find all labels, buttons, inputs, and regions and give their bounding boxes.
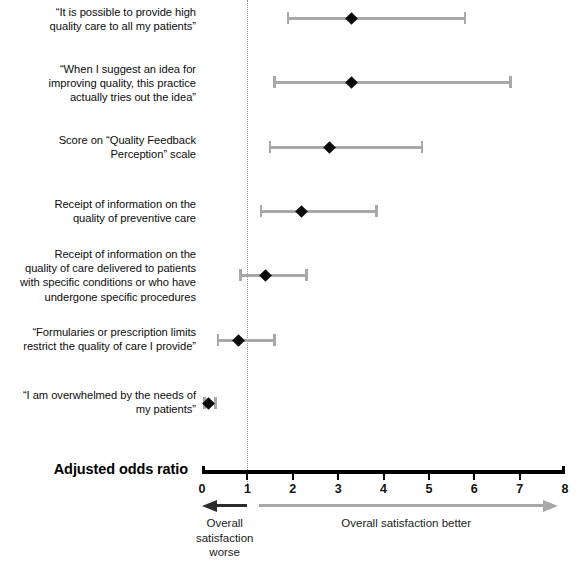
axis-tick-label: 1 <box>237 482 257 496</box>
axis-endcap-right <box>562 466 565 474</box>
axis-tick <box>337 474 339 480</box>
axis-tick <box>519 474 521 480</box>
axis-tick-label: 4 <box>374 482 394 496</box>
axis-tick <box>246 474 248 480</box>
worse-direction-arrow-line <box>216 504 247 507</box>
odds-ratio-point-marker <box>295 205 308 218</box>
confidence-interval-line <box>218 339 275 342</box>
axis-tick <box>383 474 385 480</box>
ci-cap-low <box>269 141 272 153</box>
ci-cap-high <box>509 76 512 88</box>
odds-ratio-point-marker <box>345 12 358 25</box>
odds-ratio-point-marker <box>323 141 336 154</box>
ci-cap-low <box>273 76 276 88</box>
axis-tick-label: 0 <box>192 482 212 496</box>
confidence-interval-line <box>270 146 422 149</box>
axis-title: Adjusted odds ratio <box>40 461 188 477</box>
better-direction-caption: Overall satisfaction better <box>257 516 555 531</box>
axis-tick-label: 8 <box>555 482 575 496</box>
confidence-interval-line <box>261 210 377 213</box>
axis-tick-label: 6 <box>464 482 484 496</box>
ci-cap-high <box>421 141 424 153</box>
confidence-interval-line <box>241 274 307 277</box>
axis-tick-label: 7 <box>510 482 530 496</box>
ci-cap-high <box>305 269 308 281</box>
odds-ratio-point-marker <box>259 269 272 282</box>
confidence-interval-line <box>275 81 511 84</box>
plot-area: 012345678Adjusted odds ratioOverall sati… <box>0 0 578 562</box>
axis-tick-label: 2 <box>283 482 303 496</box>
forest-plot-figure: “It is possible to provide high quality … <box>0 0 578 562</box>
axis-tick-label: 3 <box>328 482 348 496</box>
better-direction-arrow-head <box>543 500 558 512</box>
axis-tick-label: 5 <box>419 482 439 496</box>
axis-tick <box>473 474 475 480</box>
odds-ratio-point-marker <box>232 334 245 347</box>
axis-endcap-left <box>202 466 205 474</box>
ci-cap-high <box>273 334 276 346</box>
ci-cap-low <box>239 269 242 281</box>
ci-cap-high <box>464 12 467 24</box>
ci-cap-low <box>217 334 220 346</box>
ci-cap-high <box>375 205 378 217</box>
odds-ratio-point-marker <box>345 76 358 89</box>
axis-tick <box>428 474 430 480</box>
null-reference-line <box>247 0 248 490</box>
worse-direction-arrow-head <box>202 500 217 512</box>
better-direction-arrow-line <box>259 504 543 507</box>
axis-tick <box>292 474 294 480</box>
ci-cap-low <box>287 12 290 24</box>
ci-cap-low <box>260 205 263 217</box>
confidence-interval-line <box>288 17 465 20</box>
